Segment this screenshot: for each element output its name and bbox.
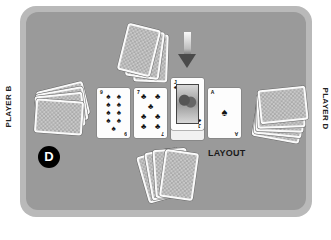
spade-pips-icon: ♠♠ ♠♠ ♠♠ ♠♠ ♠: [103, 93, 124, 133]
spade-icon: ♠: [208, 106, 241, 118]
down-arrow-icon: [180, 32, 194, 70]
arrow-shaft: [184, 32, 191, 56]
card-rank: A: [210, 90, 215, 95]
card-back[interactable]: [34, 98, 84, 135]
layout-card-ace-spades[interactable]: A A ♠: [208, 88, 241, 138]
club-pips-icon: ♣♣ ♣ ♣♣ ♣♣: [140, 93, 161, 133]
layout-label: LAYOUT: [208, 148, 245, 158]
arrow-head: [178, 54, 196, 68]
card-back[interactable]: [257, 86, 308, 125]
jack-face-art-icon: [176, 84, 199, 124]
card-back[interactable]: [159, 149, 199, 201]
layout-card-9-spades[interactable]: 9 9 ♠♠ ♠♠ ♠♠ ♠♠ ♠: [97, 88, 130, 138]
layout-card-jack-clubs[interactable]: J♣ J♣: [171, 78, 204, 130]
layout-card-7-clubs[interactable]: 7 7 ♣♣ ♣ ♣♣ ♣♣: [134, 88, 167, 138]
player-b-label: PLAYER B: [4, 88, 13, 128]
card-rank: A: [234, 131, 239, 136]
player-d-label: PLAYER D: [321, 88, 330, 128]
dealer-button: D: [38, 146, 60, 168]
